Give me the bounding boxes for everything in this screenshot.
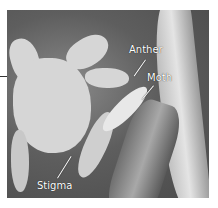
leader-line-anther (134, 59, 146, 76)
flower-photo: Anther Moth Stigma (7, 10, 209, 198)
petal (85, 68, 129, 88)
label-stigma: Stigma (37, 180, 72, 192)
petal (11, 130, 29, 192)
label-moth: Moth (147, 72, 172, 84)
leader-line-stigma (57, 156, 72, 179)
label-anther: Anther (129, 44, 163, 56)
